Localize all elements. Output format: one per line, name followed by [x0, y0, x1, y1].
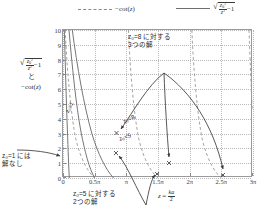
y-axis-label-line3: −cot(z) [2, 82, 60, 93]
solid-line-swatch-icon [176, 8, 210, 9]
arrow-to-z0-8-sol3 [164, 73, 223, 169]
ytick-label-9: 9 [58, 41, 61, 48]
xtick-label-1.5pi: 1.5π [152, 178, 163, 185]
annotation-z0-5: z₀=5 に対する 2つの解 [73, 190, 116, 206]
ytick-label-3: 3 [58, 130, 61, 137]
xtick-label-3pi: 3π [250, 178, 257, 185]
y-axis-label: √ z02z2−1 と −cot(z) [2, 58, 60, 93]
ytick-label-7: 7 [58, 71, 61, 78]
y-axis-label-line1: √ z02z2−1 [2, 58, 60, 72]
cot-branch-2 [129, 30, 159, 178]
arrow-to-z0-8-sol2 [164, 73, 169, 157]
cot-branch-4-stub [249, 30, 252, 110]
y-axis-label-line2: と [2, 72, 60, 83]
annotation-z0-8-line1: z₀=8 に対する [128, 33, 171, 41]
xtick-label-2.5pi: 2.5π [216, 178, 227, 185]
xtick-label-2pi: 2π [186, 178, 193, 185]
xtick-label-0: 0 [61, 178, 64, 185]
annotation-z0-8-line2: 3つの解 [128, 41, 171, 49]
ytick-label-6: 6 [58, 86, 61, 93]
x-axis-label: z = ka2 [158, 190, 175, 203]
plot-area: 10 9 8 7 6 5 4 3 2 1 0 0 0.5π π [62, 29, 252, 177]
cot-branch-3 [192, 30, 221, 178]
annotation-z0-1: z₀=1 には 解なし [2, 152, 31, 168]
ytick-label-1: 1 [58, 160, 61, 167]
ytick-label-4: 4 [58, 115, 61, 122]
legend-label-cot: −cot(z) [115, 5, 135, 13]
annotation-z0-1-line1: z₀=1 には [2, 152, 31, 160]
legend-item-cot: −cot(z) [78, 5, 135, 13]
ytick-label-8: 8 [58, 56, 61, 63]
legend-label-sqrt: √ z02z2−1 [213, 2, 235, 16]
curves-svg [63, 30, 253, 178]
arrow-to-z0-5-sol1 [119, 156, 146, 205]
annotation-z0-5-line1: z₀=5 に対する [73, 190, 116, 198]
legend-item-sqrt: √ z02z2−1 [176, 2, 235, 16]
xtick-label-0.5pi: 0.5π [89, 178, 100, 185]
xtick-label-pi: π [125, 178, 128, 185]
figure-root: −cot(z) √ z02z2−1 √ z02z2−1 と −cot(z) [0, 0, 266, 212]
solution-marker-z0-8-2 [167, 161, 171, 165]
dashed-line-swatch-icon [78, 9, 112, 10]
gridline-x-3pi [253, 30, 254, 176]
solution-marker-z0-8-1 [115, 131, 119, 135]
annotation-z0-1-line2: 解なし [2, 160, 31, 168]
sqrt-curve-z0-8 [72, 30, 113, 178]
ytick-label-2: 2 [58, 145, 61, 152]
annotation-z0-8: z₀=8 に対する 3つの解 [128, 33, 171, 49]
annotation-z0-5-line2: 2つの解 [73, 198, 116, 206]
legend: −cot(z) √ z02z2−1 [0, 0, 266, 26]
solution-marker-z0-5-1 [114, 151, 118, 155]
ytick-label-10: 10 [55, 27, 62, 34]
ytick-label-5: 5 [58, 101, 61, 108]
plot-inner: 10 9 8 7 6 5 4 3 2 1 0 0 0.5π π [63, 30, 251, 176]
cot-curve-group [65, 30, 252, 178]
